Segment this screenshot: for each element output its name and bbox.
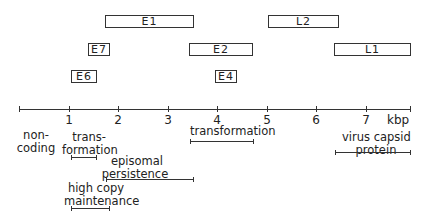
gene-box-e2: E2 [189,43,253,56]
axis-tick-label-6: 6 [306,113,326,127]
function-label-episomal-persistence: episomal persistence [104,155,170,181]
axis-tick-2 [118,106,119,112]
function-bar-transformation-1 [71,157,97,158]
gene-box-l2: L2 [268,15,339,28]
axis-tick-4 [217,106,218,112]
gene-label-e6: E6 [76,71,92,82]
gene-label-e4: E4 [218,71,234,82]
axis-tick-label-1: 1 [59,113,79,127]
gene-label-l2: L2 [296,16,311,27]
function-label-transformation-2: transformation [190,125,270,138]
gene-box-e6: E6 [71,70,97,83]
axis-tick-label-3: 3 [158,113,178,127]
axis-tick-1 [69,106,70,112]
axis-tick-6 [316,106,317,112]
gene-label-l1: L1 [365,44,380,55]
gene-box-e4: E4 [215,70,237,83]
gene-label-e7: E7 [91,44,107,55]
axis-tick-7 [366,106,367,112]
axis-tick-5 [267,106,268,112]
function-label-noncoding: non- coding [14,129,58,155]
function-bar-virus-capsid-protein [335,152,411,153]
function-label-transformation-1: trans- formation [66,131,112,157]
function-bar-high-copy-maintenance [71,208,110,209]
gene-box-e1: E1 [105,15,194,28]
genome-map-diagram: E1 L2 E7 E2 L1 E6 E4 1 2 3 4 5 6 7 kbp n… [0,0,430,224]
axis-tick-end [410,106,411,112]
gene-box-l1: L1 [334,43,411,56]
function-bar-transformation-2 [190,141,254,142]
function-bar-episomal-persistence [106,179,194,180]
axis-tick-label-7: 7 [356,113,376,127]
axis-tick-3 [168,106,169,112]
axis-tick-0 [19,106,20,112]
kbp-axis-line [19,109,410,110]
axis-unit-label: kbp [387,113,409,127]
gene-label-e1: E1 [142,16,158,27]
axis-tick-label-2: 2 [108,113,128,127]
function-label-high-copy-maintenance: high copy maintenance [64,182,134,208]
gene-label-e2: E2 [213,44,229,55]
function-label-virus-capsid-protein: virus capsid protein [342,131,410,157]
gene-box-e7: E7 [88,43,110,56]
